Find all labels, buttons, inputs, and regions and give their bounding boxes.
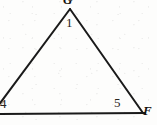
triangle-right-side bbox=[70, 9, 143, 113]
angle-label-5: 5 bbox=[114, 96, 121, 109]
vertex-label-f: F bbox=[143, 104, 152, 117]
triangle-base-line bbox=[0, 113, 145, 114]
triangle-left-side bbox=[0, 9, 70, 114]
angle-label-4: 4 bbox=[0, 97, 7, 110]
triangle-figure: G 1 4 5 F bbox=[0, 0, 157, 125]
vertex-label-g: G bbox=[63, 0, 72, 6]
triangle-drawing bbox=[0, 0, 157, 125]
angle-label-1: 1 bbox=[66, 16, 73, 29]
